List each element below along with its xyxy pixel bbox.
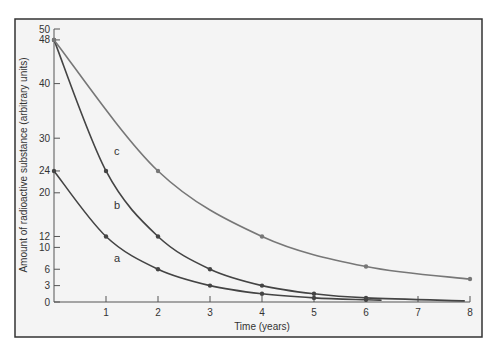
data-point-c <box>52 38 56 42</box>
data-point-b <box>156 234 160 238</box>
y-tick-label: 48 <box>39 34 51 45</box>
curve-label-b: b <box>114 199 120 211</box>
x-tick-label: 6 <box>363 307 369 318</box>
x-tick-label: 3 <box>207 307 213 318</box>
data-point-b <box>312 292 316 296</box>
data-point-a <box>52 169 56 173</box>
x-axis-label: Time (years) <box>234 321 290 332</box>
data-point-b <box>260 283 264 287</box>
y-tick-label: 10 <box>39 242 51 253</box>
data-point-a <box>208 283 212 287</box>
x-tick-label: 4 <box>259 307 265 318</box>
x-tick-label: 1 <box>103 307 109 318</box>
data-point-a <box>156 267 160 271</box>
half-life-chart: 123456780361012202430404850 abc Time (ye… <box>0 0 499 356</box>
y-tick-label: 24 <box>39 165 51 176</box>
chart-frame <box>15 19 482 337</box>
data-point-b <box>208 267 212 271</box>
data-point-b <box>104 169 108 173</box>
data-point-c <box>364 264 368 268</box>
data-point-c <box>468 277 472 281</box>
curve-label-c: c <box>114 145 120 157</box>
data-point-a <box>312 296 316 300</box>
y-tick-label: 30 <box>39 133 51 144</box>
y-tick-label: 0 <box>44 297 50 308</box>
data-point-a <box>104 234 108 238</box>
y-axis-label: Amount of radioactive substance (arbitra… <box>18 57 29 272</box>
curve-label-a: a <box>114 252 121 264</box>
y-tick-label: 50 <box>39 24 51 35</box>
y-tick-label: 20 <box>39 187 51 198</box>
data-point-c <box>156 169 160 173</box>
data-point-b <box>364 296 368 300</box>
x-tick-label: 5 <box>311 307 317 318</box>
x-tick-label: 8 <box>467 307 473 318</box>
y-tick-label: 12 <box>39 231 51 242</box>
y-tick-label: 40 <box>39 78 51 89</box>
x-tick-label: 7 <box>415 307 421 318</box>
data-point-c <box>260 234 264 238</box>
y-tick-label: 3 <box>44 280 50 291</box>
x-tick-label: 2 <box>155 307 161 318</box>
data-point-a <box>260 292 264 296</box>
y-tick-label: 6 <box>44 264 50 275</box>
